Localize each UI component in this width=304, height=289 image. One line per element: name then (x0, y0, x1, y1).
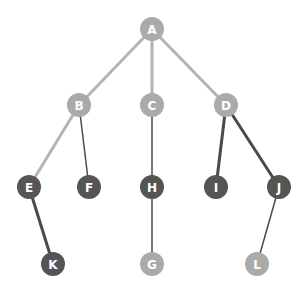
node-label: H (147, 181, 157, 195)
node-b: B (67, 93, 91, 117)
edge-a-d (152, 29, 226, 105)
node-l: L (245, 252, 269, 276)
edge-d-i (216, 105, 226, 187)
tree-diagram: ABCDEFHIJKGL (0, 0, 304, 289)
edge-d-j (226, 105, 279, 187)
node-c: C (140, 93, 164, 117)
edge-b-e (29, 105, 79, 187)
node-a: A (140, 17, 164, 41)
node-label: A (147, 23, 157, 37)
node-label: G (147, 258, 157, 272)
node-label: K (48, 258, 58, 272)
edge-j-l (257, 187, 279, 264)
node-f: F (77, 175, 101, 199)
edge-a-b (79, 29, 152, 105)
node-k: K (41, 252, 65, 276)
node-label: B (74, 99, 83, 113)
node-i: I (204, 175, 228, 199)
node-d: D (214, 93, 238, 117)
tree-nodes: ABCDEFHIJKGL (17, 17, 291, 276)
node-j: J (267, 175, 291, 199)
node-label: F (85, 181, 93, 195)
edge-e-k (29, 187, 53, 264)
node-h: H (140, 175, 164, 199)
node-label: C (148, 99, 157, 113)
edge-b-f (79, 105, 89, 187)
node-label: I (214, 181, 218, 195)
tree-edges (29, 29, 279, 264)
node-label: D (221, 99, 231, 113)
node-label: J (276, 181, 281, 195)
node-label: E (25, 181, 33, 195)
node-label: L (253, 258, 261, 272)
node-g: G (140, 252, 164, 276)
node-e: E (17, 175, 41, 199)
